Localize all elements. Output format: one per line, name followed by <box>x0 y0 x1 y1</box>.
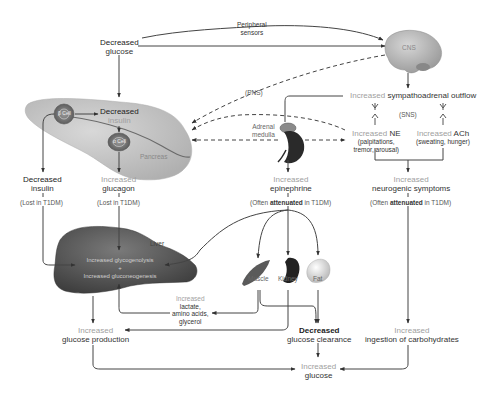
alpha-cell-label: α Cell <box>113 138 126 144</box>
beta-cell-label: β Cell <box>58 110 71 116</box>
increased-carbohydrates-label: Increased ingestion of carbohydrates <box>365 326 459 344</box>
peripheral-sensors-label: Peripheral sensors <box>237 21 267 36</box>
neurogenic-note: (Often attenuated in T1DM) <box>370 199 451 206</box>
decreased-insulin-inner-label: Decreased insulin <box>100 107 139 125</box>
decreased-glucose-clearance-label: Decreased glucose clearance <box>287 326 351 344</box>
increased-neurogenic-symptoms-label: Increased neurogenic symptoms <box>372 175 450 193</box>
increased-epinephrine-label: Increased epinephrine <box>270 175 312 193</box>
increased-glucagon-label: Increased glucagon <box>101 175 136 193</box>
liver-process-label: Increased glycogenolysis + Increased glu… <box>80 256 160 280</box>
muscle-label: Muscle <box>248 275 269 282</box>
kidney-icon-main <box>284 131 304 163</box>
increased-glucose-production-label: Increased glucose production <box>62 326 129 344</box>
muscle-icon <box>242 260 270 286</box>
cns-label: CNS <box>402 44 416 51</box>
insulin-note: (Lost in T1DM) <box>20 199 63 206</box>
fat-label: Fat <box>313 275 322 282</box>
decreased-glucose-label: Decreased glucose <box>100 38 139 56</box>
adrenal-medulla-label: Adrenal medulla <box>252 123 275 138</box>
increased-ach-label: Increased ACh (sweating, hunger) <box>416 129 470 146</box>
brain-icon <box>385 30 442 73</box>
sns-label: (SNS) <box>399 111 417 118</box>
pns-label: (PNS) <box>245 89 263 96</box>
increased-glucose-label: Increased glucose <box>301 362 336 380</box>
increased-ne-label: Increased NE (palpitations, tremor, arou… <box>352 129 401 153</box>
decreased-insulin-label: Decreased insulin <box>23 175 62 193</box>
epinephrine-note: (Often attenuated in T1DM) <box>250 199 331 206</box>
kidney-label: Kidney <box>278 275 298 282</box>
substrates-label: Increased lactate, amino acids, glycerol <box>172 295 209 325</box>
pancreas-label: Pancreas <box>140 153 167 160</box>
sympathoadrenal-outflow-label: Increased sympathoadrenal outflow <box>350 91 476 100</box>
liver-label: Liver <box>150 240 164 247</box>
glucagon-note: (Lost in T1DM) <box>97 199 140 206</box>
